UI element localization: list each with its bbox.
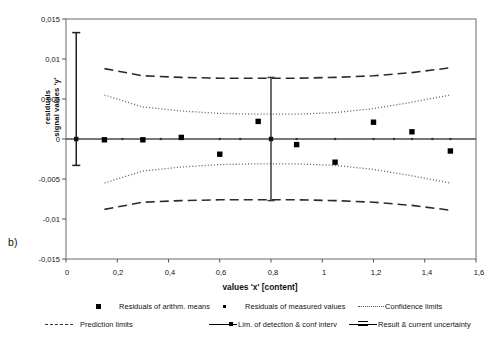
confidence-limit-curve: [104, 95, 450, 114]
square-marker-icon: [84, 302, 114, 310]
result-bar-icon: [349, 320, 375, 328]
arith-mean-residual-point: [102, 137, 107, 142]
legend-label: Prediction limits: [80, 320, 133, 329]
arith-mean-residual-point: [448, 148, 453, 153]
measured-value-point: [219, 138, 221, 140]
detection-limit-point: [74, 137, 78, 141]
arith-mean-residual-point: [179, 135, 184, 140]
legend-label: Confidence limits: [385, 302, 442, 311]
legend-label: Residuals of arithm. means: [119, 302, 210, 311]
arith-mean-residual-point: [217, 152, 222, 157]
arith-mean-residual-point: [140, 137, 145, 142]
measured-value-point: [239, 138, 241, 140]
measured-value-point: [449, 138, 451, 140]
measured-value-point: [411, 138, 413, 140]
chart-figure: b) residuals signal values 'y' values 'x…: [0, 0, 495, 343]
measured-value-point: [372, 138, 374, 140]
prediction-limit-curve: [104, 200, 450, 210]
arith-mean-residual-point: [371, 120, 376, 125]
dashed-line-icon: [45, 320, 75, 328]
legend-item-prediction-limits: Prediction limits: [45, 319, 133, 329]
legend-item-lim-of-detection: Lim. of detection & conf interv: [209, 319, 337, 329]
measured-value-point: [160, 138, 162, 140]
legend-item-result-uncertainty: Result & current uncertainty: [349, 319, 471, 329]
legend-item-residuals-arith-means: Residuals of arithm. means: [84, 301, 210, 311]
dot-marker-icon: [210, 302, 240, 310]
measured-value-point: [334, 138, 336, 140]
result-point: [269, 137, 273, 141]
measured-value-point: [431, 138, 433, 140]
legend-label: Result & current uncertainty: [378, 320, 471, 329]
chart-legend: Residuals of arithm. means Residuals of …: [0, 297, 495, 341]
legend-item-confidence-limits: Confidence limits: [358, 301, 442, 311]
legend-label: Lim. of detection & conf interv: [238, 320, 337, 329]
measured-value-point: [393, 138, 395, 140]
plot-area: [0, 0, 495, 343]
prediction-limit-curve: [104, 68, 450, 78]
legend-item-residuals-measured-values: Residuals of measured values: [210, 301, 346, 311]
arith-mean-residual-point: [255, 119, 260, 124]
confidence-limit-curve: [104, 164, 450, 183]
measured-value-point: [296, 138, 298, 140]
error-bar-icon: [209, 320, 235, 328]
legend-label: Residuals of measured values: [245, 302, 345, 311]
arith-mean-residual-point: [409, 129, 414, 134]
measured-value-point: [121, 138, 123, 140]
arith-mean-residual-point: [332, 160, 337, 165]
arith-mean-residual-point: [294, 142, 299, 147]
dotted-line-icon: [358, 302, 380, 310]
